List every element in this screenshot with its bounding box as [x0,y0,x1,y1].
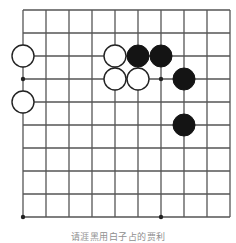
board-stones[interactable] [12,45,195,136]
star-point-marker [159,215,163,219]
white-stone[interactable] [12,45,34,67]
go-diagram-figure: 请涯黑用白子占的贾利 [0,0,236,243]
figure-caption: 请涯黑用白子占的贾利 [0,232,236,243]
white-stone[interactable] [127,68,149,90]
black-stone[interactable] [173,114,195,136]
black-stone[interactable] [127,45,149,67]
star-point-marker [159,77,163,81]
go-board[interactable] [0,0,236,243]
white-stone[interactable] [104,68,126,90]
star-point-marker [21,215,25,219]
white-stone[interactable] [104,45,126,67]
board-grid-lines [23,10,230,217]
black-stone[interactable] [173,68,195,90]
star-point-marker [21,77,25,81]
black-stone[interactable] [150,45,172,67]
white-stone[interactable] [12,91,34,113]
